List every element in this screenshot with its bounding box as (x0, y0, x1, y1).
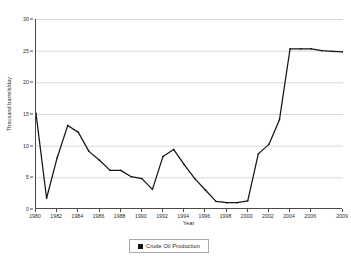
data-point-marker (78, 132, 79, 133)
y-axis-tick-mark (30, 145, 33, 146)
data-point-marker (173, 149, 174, 150)
chart-legend: Crude Oil Production (129, 239, 209, 253)
data-point-marker (109, 170, 110, 171)
plot-area (35, 19, 342, 209)
y-axis-tick-label: 20 (23, 79, 29, 85)
data-point-marker (56, 157, 57, 158)
data-point-marker (258, 153, 259, 154)
data-point-marker (131, 176, 132, 177)
x-axis-tick-mark (183, 209, 184, 212)
plot-svg (36, 19, 343, 209)
x-axis-tick-label: 1980 (29, 213, 41, 219)
data-point-marker (300, 48, 301, 49)
y-axis-tick-label: 30 (23, 16, 29, 22)
data-point-marker (88, 151, 89, 152)
x-axis-tick-mark (342, 209, 343, 212)
y-axis-tick-mark (30, 114, 33, 115)
data-point-marker (321, 50, 322, 51)
data-point-marker (120, 170, 121, 171)
y-axis: 051015202530 (0, 19, 33, 209)
x-axis-tick-label: 1984 (71, 213, 83, 219)
x-axis-tick-label: 1990 (135, 213, 147, 219)
x-axis-tick-mark (204, 209, 205, 212)
data-point-marker (289, 48, 290, 49)
data-point-marker (194, 178, 195, 179)
data-point-marker (46, 198, 47, 199)
data-line (36, 49, 343, 203)
crude-oil-production-line-chart: Thousand barrels/day 051015202530 198019… (0, 0, 351, 263)
y-axis-tick-label: 0 (26, 206, 29, 212)
x-axis-tick-label: 2000 (241, 213, 253, 219)
x-axis-tick-label: 2009 (336, 213, 348, 219)
x-axis-tick-label: 1986 (93, 213, 105, 219)
data-point-marker (99, 160, 100, 161)
data-point-marker (67, 125, 68, 126)
data-series-group (36, 48, 343, 203)
x-axis-tick-label: 1992 (156, 213, 168, 219)
x-axis-tick-mark (162, 209, 163, 212)
legend-swatch-icon (138, 244, 143, 249)
x-axis-tick-label: 2006 (304, 213, 316, 219)
x-axis-tick-mark (310, 209, 311, 212)
data-point-marker (36, 113, 37, 114)
y-axis-tick-mark (30, 19, 33, 20)
data-point-marker (215, 201, 216, 202)
x-axis-tick-mark (226, 209, 227, 212)
x-axis-tick-mark (120, 209, 121, 212)
x-axis-tick-label: 1982 (50, 213, 62, 219)
x-axis-tick-label: 1988 (114, 213, 126, 219)
x-axis-tick-mark (268, 209, 269, 212)
x-axis-tick-mark (141, 209, 142, 212)
y-axis-tick-mark (30, 177, 33, 178)
data-point-marker (184, 164, 185, 165)
data-point-marker (162, 156, 163, 157)
legend-label: Crude Oil Production (146, 243, 200, 249)
y-axis-tick-mark (30, 50, 33, 51)
data-point-marker (268, 144, 269, 145)
data-point-marker (311, 48, 312, 49)
y-axis-tick-label: 5 (26, 174, 29, 180)
x-axis-tick-label: 2002 (262, 213, 274, 219)
x-axis-tick-label: 1998 (220, 213, 232, 219)
x-axis-tick-label: 2004 (283, 213, 295, 219)
data-point-marker (332, 51, 333, 52)
x-axis-tick-mark (77, 209, 78, 212)
y-axis-tick-mark (30, 209, 33, 210)
data-point-marker (279, 119, 280, 120)
data-point-marker (141, 178, 142, 179)
data-point-marker (205, 189, 206, 190)
y-axis-tick-label: 15 (23, 111, 29, 117)
x-axis-tick-label: 1994 (177, 213, 189, 219)
data-point-marker (152, 189, 153, 190)
x-axis-tick-mark (35, 209, 36, 212)
data-point-marker (236, 202, 237, 203)
data-point-marker (342, 51, 343, 52)
x-axis-tick-mark (247, 209, 248, 212)
y-axis-tick-mark (30, 82, 33, 83)
data-point-marker (247, 200, 248, 201)
gridlines (36, 20, 343, 178)
y-axis-tick-label: 25 (23, 48, 29, 54)
x-axis-tick-mark (289, 209, 290, 212)
x-axis-tick-mark (99, 209, 100, 212)
x-axis-tick-label: 1996 (199, 213, 211, 219)
data-point-marker (226, 202, 227, 203)
y-axis-tick-label: 10 (23, 143, 29, 149)
x-axis-title: Year (35, 220, 342, 226)
x-axis-tick-mark (56, 209, 57, 212)
